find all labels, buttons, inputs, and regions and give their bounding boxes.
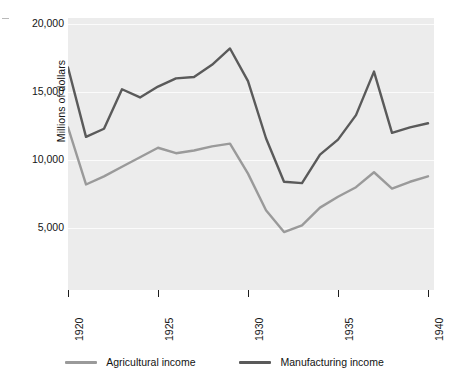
line-series-agricultural-income bbox=[68, 127, 428, 232]
x-axis-ticks bbox=[0, 290, 449, 298]
y-tick-label-5000: 5,000 bbox=[6, 221, 64, 233]
chart-figure: Millions of dollars 5,00010,00015,00020,… bbox=[0, 0, 449, 378]
legend-swatch-icon bbox=[239, 361, 271, 364]
line-series-manufacturing-income bbox=[68, 48, 428, 183]
legend-label: Agricultural income bbox=[106, 356, 195, 368]
x-tick-label-1940: 1940 bbox=[433, 318, 445, 341]
x-tick-label-1920: 1920 bbox=[73, 318, 85, 341]
x-tick-label-1935: 1935 bbox=[343, 318, 355, 341]
x-tick-label-1930: 1930 bbox=[253, 318, 265, 341]
legend-item-agricultural-income[interactable]: Agricultural income bbox=[65, 356, 195, 368]
y-tick-label-10000: 10,000 bbox=[6, 153, 64, 165]
series-lines bbox=[68, 18, 434, 290]
x-axis-tick-labels: 19201925193019351940 bbox=[0, 299, 449, 345]
chart-legend: Agricultural incomeManufacturing income bbox=[0, 352, 449, 372]
legend-swatch-icon bbox=[65, 361, 97, 364]
x-tick-1930 bbox=[248, 290, 249, 297]
x-tick-1925 bbox=[158, 290, 159, 297]
x-tick-1920 bbox=[68, 290, 69, 297]
y-tick-label-15000: 15,000 bbox=[6, 85, 64, 97]
legend-label: Manufacturing income bbox=[280, 356, 383, 368]
x-tick-1940 bbox=[428, 290, 429, 297]
legend-item-manufacturing-income[interactable]: Manufacturing income bbox=[239, 356, 383, 368]
y-tick-label-20000: 20,000 bbox=[6, 17, 64, 29]
x-tick-1935 bbox=[338, 290, 339, 297]
plot-area bbox=[68, 18, 434, 290]
x-tick-label-1925: 1925 bbox=[163, 318, 175, 341]
